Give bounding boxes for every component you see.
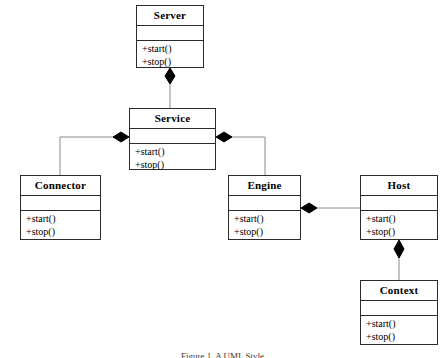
composition-diamond-engine bbox=[301, 203, 317, 213]
uml-class-diagram: Server +start() +stop() Service +start()… bbox=[0, 0, 445, 358]
operation: +stop() bbox=[234, 226, 296, 239]
operation: +stop() bbox=[26, 226, 96, 239]
class-operations-engine: +start() +stop() bbox=[229, 211, 300, 240]
operation: +stop() bbox=[366, 331, 433, 344]
class-attributes-server bbox=[137, 26, 203, 41]
uml-class-engine[interactable]: Engine +start() +stop() bbox=[228, 175, 301, 240]
class-operations-context: +start() +stop() bbox=[361, 316, 437, 345]
operation: +stop() bbox=[135, 159, 211, 172]
class-operations-service: +start() +stop() bbox=[130, 144, 215, 173]
class-name-engine: Engine bbox=[229, 176, 300, 196]
class-operations-connector: +start() +stop() bbox=[21, 211, 100, 240]
class-name-host: Host bbox=[361, 176, 437, 196]
uml-class-connector[interactable]: Connector +start() +stop() bbox=[20, 175, 101, 240]
figure-caption: Figure 1. A UML Style bbox=[0, 351, 445, 358]
composition-diamond-service-left bbox=[113, 132, 129, 142]
operation: +stop() bbox=[142, 56, 199, 69]
uml-class-server[interactable]: Server +start() +stop() bbox=[136, 5, 204, 68]
composition-diamond-host bbox=[394, 240, 404, 258]
class-name-service: Service bbox=[130, 109, 215, 129]
class-attributes-context bbox=[361, 301, 437, 316]
operation: +stop() bbox=[366, 226, 433, 239]
class-name-connector: Connector bbox=[21, 176, 100, 196]
class-attributes-service bbox=[130, 129, 215, 144]
uml-class-host[interactable]: Host +start() +stop() bbox=[360, 175, 438, 240]
uml-class-service[interactable]: Service +start() +stop() bbox=[129, 108, 216, 170]
composition-diamond-server bbox=[165, 68, 175, 84]
class-attributes-host bbox=[361, 196, 437, 211]
class-operations-host: +start() +stop() bbox=[361, 211, 437, 240]
edge-service-connector bbox=[60, 137, 121, 175]
operation: +start() bbox=[234, 213, 296, 226]
operation: +start() bbox=[142, 43, 199, 56]
composition-diamond-service-right bbox=[216, 132, 232, 142]
class-name-server: Server bbox=[137, 6, 203, 26]
operation: +start() bbox=[366, 213, 433, 226]
class-attributes-engine bbox=[229, 196, 300, 211]
operation: +start() bbox=[135, 146, 211, 159]
class-operations-server: +start() +stop() bbox=[137, 41, 203, 70]
operation: +start() bbox=[366, 318, 433, 331]
uml-class-context[interactable]: Context +start() +stop() bbox=[360, 280, 438, 345]
class-attributes-connector bbox=[21, 196, 100, 211]
edge-service-engine bbox=[224, 137, 265, 175]
class-name-context: Context bbox=[361, 281, 437, 301]
operation: +start() bbox=[26, 213, 96, 226]
